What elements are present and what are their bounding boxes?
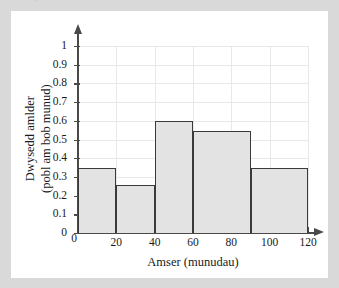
histogram-bar [193, 131, 251, 233]
x-tick-label: 20 [96, 237, 136, 249]
x-tick-mark [308, 227, 309, 233]
histogram-bar [155, 121, 193, 233]
top-cropped-text-strip: . [0, 0, 339, 10]
y-tick-label-wrap: 1 [23, 46, 67, 47]
y-axis-title: Dwysedd amlder (pobl am bob munud) [23, 49, 54, 229]
x-tick-label: 40 [135, 237, 175, 249]
x-axis-title-text: Amser (munudau) [147, 255, 238, 269]
histogram-bar [78, 168, 116, 233]
y-tick-mark [74, 140, 80, 141]
y-axis-title-line2: (pobl am bob munud) [39, 49, 55, 229]
y-tick-mark [74, 83, 80, 84]
histogram-figure: 00.10.20.30.40.50.60.70.80.91 0204060801… [11, 11, 328, 278]
x-tick-label: 0 [54, 233, 94, 245]
y-tick-mark [74, 46, 80, 47]
gridline-vertical [308, 46, 309, 233]
x-axis-arrow-icon [314, 228, 324, 236]
cropped-text: . [34, 0, 37, 3]
x-tick-label: 120 [288, 237, 328, 249]
x-tick-label: 60 [173, 237, 213, 249]
x-tick-label: 100 [250, 237, 290, 249]
y-axis-arrow-icon [74, 24, 82, 34]
y-tick-mark [74, 102, 80, 103]
y-tick-mark [74, 65, 80, 66]
histogram-bar [116, 185, 154, 233]
x-tick-label: 80 [211, 237, 251, 249]
y-tick-mark [74, 158, 80, 159]
histogram-bar [251, 168, 309, 233]
x-axis-title: Amser (munudau) [78, 255, 308, 270]
y-axis-title-line1: Dwysedd amlder [23, 49, 39, 229]
figure-panel: 00.10.20.30.40.50.60.70.80.91 0204060801… [11, 11, 328, 278]
y-tick-mark [74, 121, 80, 122]
